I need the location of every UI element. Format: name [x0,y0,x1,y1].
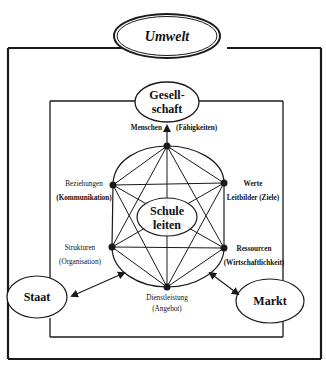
label-bottom-1: Dienstleistung [146,294,188,302]
markt-label: Markt [253,294,286,308]
label-lower-left-2: (Organisation) [59,258,101,266]
gesellschaft-label-2: schaft [152,102,183,116]
node-dot-top [164,143,171,150]
gesellschaft-label-1: Gesell- [149,88,184,102]
gesellschaft-node: Gesell- schaft [135,82,199,122]
center-node: Schule leiten [137,198,197,236]
label-upper-right-2: Leitbilder (Ziele) [227,194,280,202]
staat-node: Staat [7,276,67,318]
arrow-staat-star [72,273,124,296]
node-dot-lower-left [109,244,116,251]
center-label-1: Schule [150,204,185,218]
label-lower-right-2: (Wirtschaftlichkeit) [224,259,285,267]
label-upper-left-1: Beziehungen [65,180,103,188]
label-bottom-2: (Angebot) [152,305,182,313]
markt-node: Markt [236,279,304,323]
arrow-markt-star [210,273,238,294]
node-dot-upper-left [110,182,117,189]
label-top-right: (Fähigkeiten) [176,124,218,132]
umwelt-label: Umwelt [145,29,190,44]
label-upper-left-2: (Kommunikation) [56,194,112,202]
staat-label: Staat [24,290,51,304]
node-dot-lower-right [221,245,228,252]
umwelt-node: Umwelt [114,14,220,58]
school-leadership-diagram: Umwelt Gesell- schaft [0,0,326,367]
node-dot-bottom [164,284,171,291]
center-label-2: leiten [153,218,181,232]
label-lower-left-1: Strukturen [65,244,96,252]
label-top-left: Menschen [131,124,162,132]
label-upper-right-1: Werte [244,180,263,188]
label-lower-right-1: Ressourcen [236,245,271,253]
node-dot-upper-right [221,180,228,187]
